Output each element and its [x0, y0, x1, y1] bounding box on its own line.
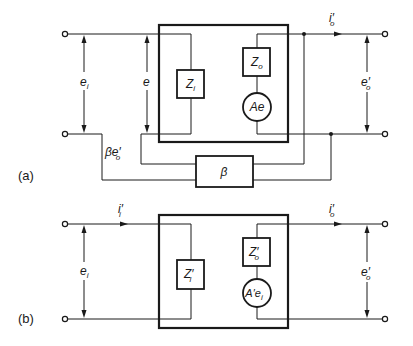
- e-label-a: e: [143, 75, 150, 89]
- ei-label-a: ei: [80, 75, 89, 91]
- current-arrow-icon: [334, 32, 342, 37]
- arrow-down-icon: [82, 310, 87, 318]
- input-terminal: [62, 131, 67, 136]
- feedback-amplifier-diagram: Zi Zo Ae β ei: [0, 0, 413, 346]
- output-terminal: [382, 316, 387, 321]
- arrow-up-icon: [82, 35, 87, 43]
- arrow-up-icon: [365, 225, 370, 233]
- eo-label-a: e′o: [361, 75, 371, 92]
- io-label-b: i′o: [329, 202, 335, 219]
- arrow-down-icon: [365, 310, 370, 318]
- arrow-up-icon: [82, 225, 87, 233]
- arrow-up-icon: [365, 35, 370, 43]
- input-terminal: [62, 31, 67, 36]
- current-arrow-icon: [120, 222, 128, 227]
- source-label-a: Ae: [249, 100, 265, 114]
- circuit-a: Zi Zo Ae β ei: [18, 11, 388, 187]
- input-terminal: [62, 221, 67, 226]
- eo-label-b: e′o: [361, 265, 371, 282]
- ei-label-b: ei: [80, 264, 89, 280]
- arrow-down-icon: [82, 125, 87, 133]
- input-terminal: [62, 316, 67, 321]
- current-arrow-icon: [334, 222, 342, 227]
- output-terminal: [382, 131, 387, 136]
- ii-label-b: i′i: [118, 202, 124, 219]
- junction-dot: [329, 132, 333, 136]
- junction-dot: [302, 32, 306, 36]
- io-label-a: i′o: [329, 11, 335, 28]
- output-terminal: [382, 221, 387, 226]
- part-a-label: (a): [18, 168, 34, 183]
- part-b-label: (b): [18, 311, 34, 326]
- arrow-down-icon: [365, 125, 370, 133]
- arrow-down-icon: [145, 125, 150, 133]
- arrow-up-icon: [145, 35, 150, 43]
- feedback-voltage-label: βe′o: [104, 145, 122, 162]
- output-terminal: [382, 31, 387, 36]
- beta-label: β: [220, 165, 228, 179]
- circuit-b: Z′i Z′o A′ei i′i ei i′o e′o (b): [18, 202, 388, 328]
